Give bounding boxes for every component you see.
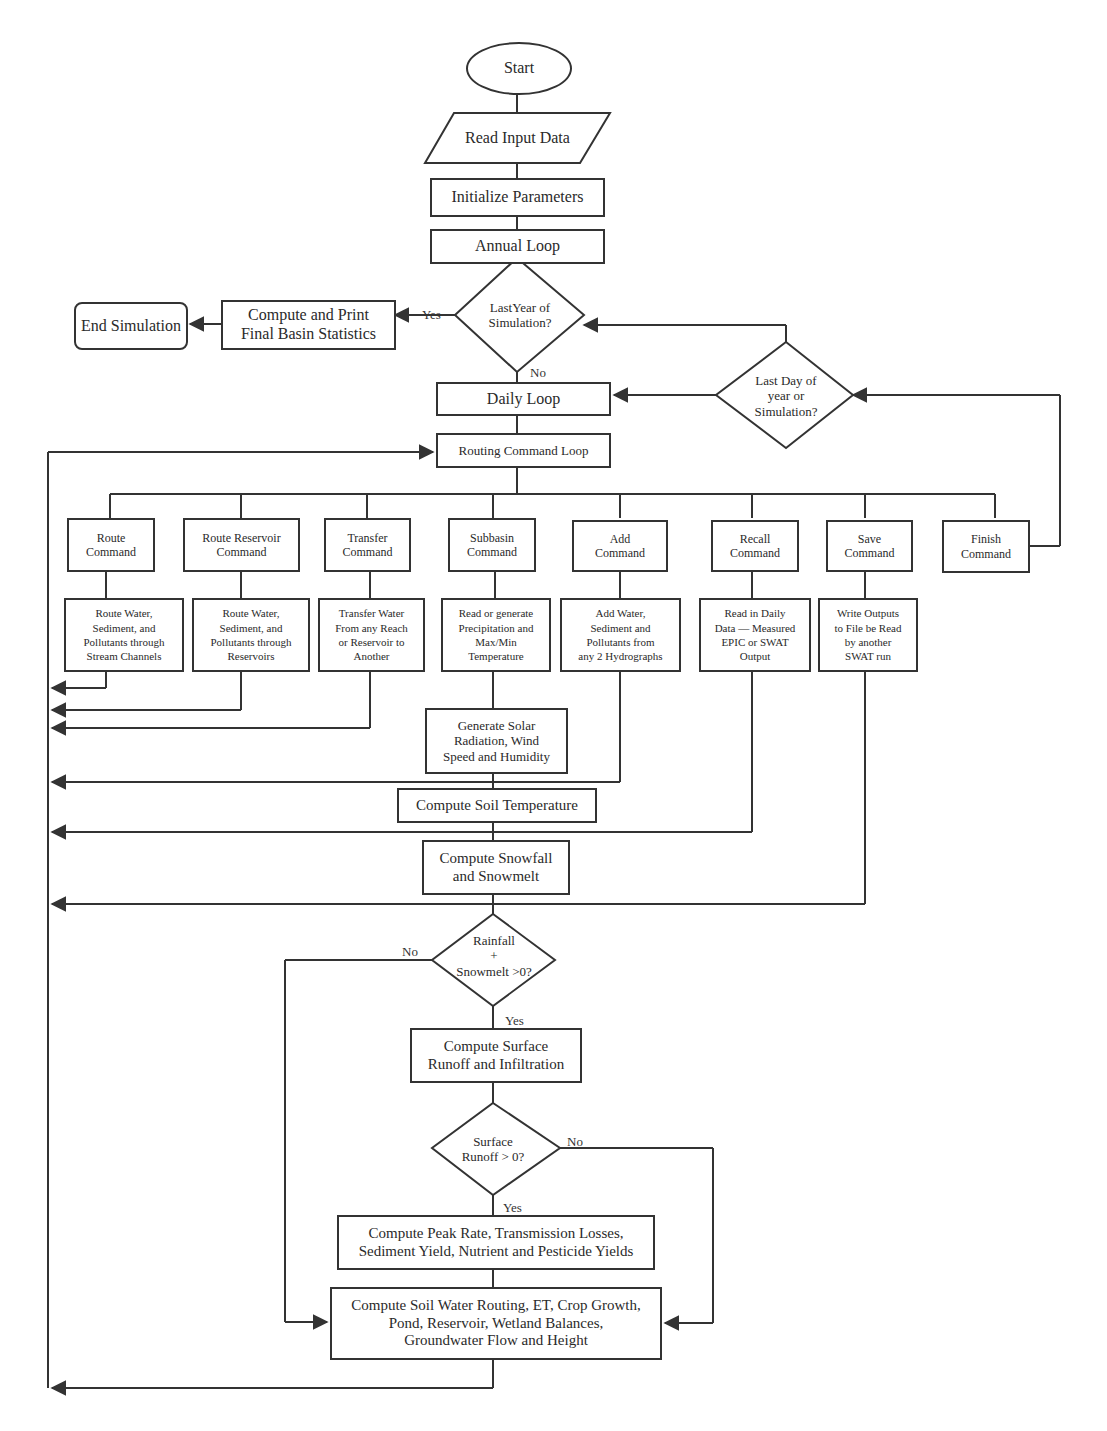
compute-snowfall-snowmelt: Compute Snowfall and Snowmelt bbox=[422, 840, 570, 895]
add-command: Add Command bbox=[572, 520, 668, 572]
daily-loop: Daily Loop bbox=[436, 382, 611, 416]
surface-runoff-decision: Surface Runoff > 0? bbox=[450, 1130, 536, 1168]
initialize-parameters: Initialize Parameters bbox=[430, 178, 605, 217]
transfer-detail: Transfer Water From any Reach or Reservo… bbox=[318, 598, 425, 672]
subbasin-detail: Read or generate Precipitation and Max/M… bbox=[441, 598, 551, 672]
start-terminal: Start bbox=[466, 42, 572, 95]
finish-command: Finish Command bbox=[942, 520, 1030, 573]
yes-label: Yes bbox=[422, 307, 441, 323]
add-detail: Add Water, Sediment and Pollutants from … bbox=[560, 598, 681, 672]
recall-command: Recall Command bbox=[711, 520, 799, 572]
yes-label: Yes bbox=[505, 1013, 524, 1029]
read-input-data: Read Input Data bbox=[440, 113, 595, 163]
save-detail: Write Outputs to File be Read by another… bbox=[818, 598, 918, 672]
routing-command-loop: Routing Command Loop bbox=[436, 433, 611, 468]
recall-detail: Read in Daily Data — Measured EPIC or SW… bbox=[699, 598, 811, 672]
compute-soil-water-routing: Compute Soil Water Routing, ET, Crop Gro… bbox=[330, 1287, 662, 1360]
compute-peak-rate: Compute Peak Rate, Transmission Losses, … bbox=[337, 1215, 655, 1270]
annual-loop: Annual Loop bbox=[430, 229, 605, 264]
no-label: No bbox=[530, 365, 546, 381]
no-label: No bbox=[567, 1134, 583, 1150]
subbasin-command: Subbasin Command bbox=[448, 518, 536, 572]
save-command: Save Command bbox=[826, 520, 913, 572]
transfer-command: Transfer Command bbox=[324, 518, 411, 572]
swat-flowchart: Start Read Input Data Initialize Paramet… bbox=[0, 0, 1107, 1431]
no-label: No bbox=[402, 944, 418, 960]
route-detail: Route Water, Sediment, and Pollutants th… bbox=[64, 598, 184, 672]
route-reservoir-detail: Route Water, Sediment, and Pollutants th… bbox=[192, 598, 310, 672]
yes-label: Yes bbox=[503, 1200, 522, 1216]
rainfall-snowmelt-decision: Rainfall + Snowmelt >0? bbox=[448, 930, 540, 982]
last-day-decision: Last Day of year or Simulation? bbox=[740, 370, 832, 422]
compute-surface-runoff: Compute Surface Runoff and Infiltration bbox=[410, 1028, 582, 1083]
last-year-decision: LastYear of Simulation? bbox=[465, 290, 575, 340]
compute-soil-temperature: Compute Soil Temperature bbox=[397, 788, 597, 823]
compute-print-statistics: Compute and Print Final Basin Statistics bbox=[221, 300, 396, 350]
generate-solar-radiation: Generate Solar Radiation, Wind Speed and… bbox=[425, 708, 568, 774]
route-command: Route Command bbox=[67, 518, 155, 572]
end-simulation: End Simulation bbox=[74, 302, 188, 350]
route-reservoir-command: Route Reservoir Command bbox=[183, 518, 300, 572]
